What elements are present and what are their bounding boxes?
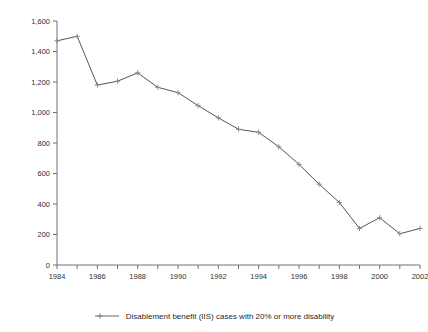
legend-label: Disablement benefit (IIS) cases with 20%…	[126, 312, 335, 321]
data-point-marker	[196, 103, 201, 108]
x-tick-label: 1998	[331, 272, 348, 281]
data-point-marker	[236, 127, 241, 132]
y-axis-ticks: 02004006008001,0001,2001,4001,600	[31, 17, 57, 270]
x-tick-label: 1996	[291, 272, 308, 281]
y-tick-label: 1,400	[31, 47, 50, 56]
y-tick-label: 800	[37, 139, 50, 148]
x-tick-label: 2000	[371, 272, 388, 281]
data-point-marker	[115, 79, 120, 84]
line-chart: 02004006008001,0001,2001,4001,600 198419…	[0, 0, 428, 332]
x-tick-label: 1988	[129, 272, 146, 281]
x-tick-label: 1984	[49, 272, 66, 281]
data-point-marker	[216, 115, 221, 120]
y-tick-label: 600	[37, 169, 50, 178]
x-tick-label: 1992	[210, 272, 227, 281]
data-series-group	[54, 34, 422, 237]
x-axis-ticks: 1984198619881990199219941996199820002002	[49, 265, 428, 281]
chart-plot-area: 02004006008001,0001,2001,4001,600 198419…	[0, 0, 428, 300]
legend-marker-icon	[94, 311, 120, 321]
y-tick-label: 0	[46, 261, 50, 270]
x-tick-label: 1990	[170, 272, 187, 281]
series-line	[57, 36, 420, 233]
y-tick-label: 1,600	[31, 17, 50, 26]
data-point-marker	[417, 226, 422, 231]
data-point-marker	[95, 82, 100, 87]
x-tick-label: 1994	[250, 272, 267, 281]
chart-legend: Disablement benefit (IIS) cases with 20%…	[0, 303, 428, 329]
y-tick-label: 400	[37, 200, 50, 209]
x-tick-label: 2002	[412, 272, 428, 281]
legend-entry: Disablement benefit (IIS) cases with 20%…	[94, 311, 335, 321]
y-tick-label: 200	[37, 230, 50, 239]
y-tick-label: 1,000	[31, 108, 50, 117]
data-point-marker	[75, 34, 80, 39]
x-tick-label: 1986	[89, 272, 106, 281]
data-point-marker	[175, 90, 180, 95]
y-tick-label: 1,200	[31, 78, 50, 87]
data-point-marker	[54, 38, 59, 43]
